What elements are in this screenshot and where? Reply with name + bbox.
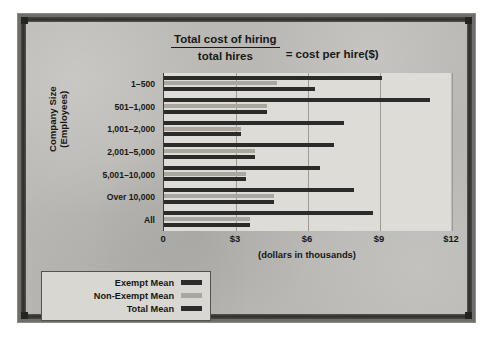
bar-exempt (164, 76, 382, 80)
frame-corner-top-left (21, 17, 28, 24)
bar-group (164, 186, 451, 209)
title-denominator: total hires (198, 48, 253, 63)
legend-item-label: Exempt Mean (115, 278, 174, 288)
bar-exempt (164, 121, 344, 125)
bar-exempt (164, 98, 430, 102)
y-axis-label: Over 10,000 (107, 192, 155, 202)
x-axis-tick-label: $6 (302, 233, 312, 244)
y-axis-label: All (144, 215, 155, 225)
bar-nonexempt (164, 172, 246, 176)
bar-total (164, 132, 241, 136)
legend-item: Exempt Mean (50, 276, 202, 289)
bar-exempt (164, 188, 354, 192)
frame-bar-top (21, 17, 472, 22)
bar-nonexempt (164, 194, 274, 198)
bar-total (164, 110, 267, 114)
x-axis-tick-label: $9 (374, 233, 384, 244)
x-axis-title: (dollars in thousands) (163, 249, 451, 260)
y-axis-label: 1–500 (131, 79, 155, 89)
bar-group (164, 96, 451, 119)
frame-corner-bottom-left (21, 312, 28, 319)
y-axis-label: 1,001–2,000 (107, 124, 155, 134)
legend-item: Non-Exempt Mean (50, 289, 202, 302)
title-numerator: Total cost of hiring (171, 33, 280, 48)
y-axis-label: 501–1,000 (114, 102, 155, 112)
y-axis-labels: 1–500501–1,0001,001–2,0002,001–5,0005,00… (79, 73, 159, 231)
bar-total (164, 155, 255, 159)
legend-item: Total Mean (50, 302, 202, 315)
legend-swatch (181, 306, 202, 311)
y-axis-label: 5,001–10,000 (102, 170, 155, 180)
bar-nonexempt (164, 104, 267, 108)
bar-group (164, 141, 451, 164)
bar-total (164, 87, 315, 91)
bar-group (164, 208, 451, 231)
legend-swatch (181, 280, 202, 285)
bar-nonexempt (164, 217, 250, 221)
bar-total (164, 223, 250, 227)
bar-group (164, 163, 451, 186)
frame-bar-left (21, 17, 26, 319)
y-axis-title-line2: (Employees) (58, 91, 69, 148)
frame-corner-bottom-right (465, 312, 472, 319)
bar-group (164, 73, 451, 96)
bar-total (164, 177, 246, 181)
title-fraction: Total cost of hiring total hires (171, 33, 280, 63)
bar-nonexempt (164, 149, 255, 153)
chart-legend: Exempt MeanNon-Exempt MeanTotal Mean (41, 271, 211, 321)
bar-exempt (164, 143, 334, 147)
x-axis-tick-label: 0 (160, 233, 165, 244)
frame-bar-right (467, 17, 472, 319)
x-axis-tick-label: $3 (230, 233, 240, 244)
frame-corner-top-right (465, 17, 472, 24)
y-axis-label: 2,001–5,000 (107, 147, 155, 157)
legend-item-label: Non-Exempt Mean (94, 291, 174, 301)
x-axis-ticks: 0$3$6$9$12 (163, 233, 451, 247)
bar-exempt (164, 166, 320, 170)
gridline (452, 73, 453, 231)
x-axis-tick-label: $12 (443, 233, 459, 244)
bar-nonexempt (164, 127, 241, 131)
legend-swatch (181, 293, 202, 298)
bar-total (164, 200, 274, 204)
legend-item-label: Total Mean (127, 304, 174, 314)
bar-group (164, 118, 451, 141)
bar-nonexempt (164, 81, 277, 85)
poster-frame: Total cost of hiring total hires = cost … (18, 14, 475, 322)
bar-exempt (164, 211, 373, 215)
chart-plot-area (163, 73, 451, 231)
y-axis-title: Company Size (Employees) (47, 86, 70, 152)
y-axis-title-line1: Company Size (47, 86, 58, 152)
plot-canvas (163, 73, 451, 231)
title-equals-expression: = cost per hire($) (286, 48, 379, 63)
chart-title: Total cost of hiring total hires = cost … (171, 33, 379, 63)
